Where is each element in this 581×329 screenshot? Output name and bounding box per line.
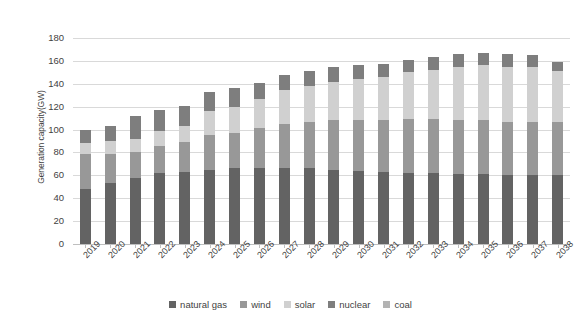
bar-segment-wind[interactable] — [179, 142, 190, 172]
bar-stack[interactable] — [353, 38, 364, 244]
bar-segment-wind[interactable] — [279, 124, 290, 169]
bar-segment-natural-gas[interactable] — [453, 174, 464, 244]
bar-stack[interactable] — [304, 38, 315, 244]
bar-segment-solar[interactable] — [105, 141, 116, 154]
bar-segment-wind[interactable] — [229, 133, 240, 168]
bar-segment-wind[interactable] — [254, 128, 265, 168]
bar-segment-natural-gas[interactable] — [154, 173, 165, 244]
bar-segment-natural-gas[interactable] — [279, 168, 290, 244]
bar-segment-solar[interactable] — [502, 67, 513, 122]
bar-stack[interactable] — [378, 38, 389, 244]
bar-segment-solar[interactable] — [328, 82, 339, 121]
bar-segment-wind[interactable] — [304, 122, 315, 169]
bar-stack[interactable] — [453, 38, 464, 244]
bar-segment-wind[interactable] — [105, 154, 116, 184]
bar-segment-nuclear[interactable] — [453, 54, 464, 67]
bar-stack[interactable] — [279, 38, 290, 244]
bar-stack[interactable] — [80, 38, 91, 244]
bar-stack[interactable] — [502, 38, 513, 244]
bar-segment-natural-gas[interactable] — [80, 189, 91, 244]
bar-segment-wind[interactable] — [502, 122, 513, 176]
bar-segment-nuclear[interactable] — [254, 83, 265, 99]
bar-stack[interactable] — [527, 38, 538, 244]
bar-stack[interactable] — [229, 38, 240, 244]
bar-segment-wind[interactable] — [353, 120, 364, 170]
bar-segment-solar[interactable] — [204, 111, 215, 135]
bar-segment-wind[interactable] — [403, 119, 414, 173]
bar-segment-solar[interactable] — [353, 79, 364, 120]
bar-segment-nuclear[interactable] — [403, 60, 414, 73]
bar-segment-natural-gas[interactable] — [353, 171, 364, 244]
bar-segment-nuclear[interactable] — [378, 64, 389, 77]
bar-segment-nuclear[interactable] — [179, 106, 190, 127]
bar-segment-solar[interactable] — [130, 139, 141, 153]
bar-segment-solar[interactable] — [527, 67, 538, 122]
bar-segment-nuclear[interactable] — [328, 67, 339, 82]
bar-segment-natural-gas[interactable] — [552, 175, 563, 244]
bar-segment-natural-gas[interactable] — [204, 170, 215, 244]
bar-segment-solar[interactable] — [304, 86, 315, 121]
bar-segment-nuclear[interactable] — [229, 88, 240, 106]
bar-segment-solar[interactable] — [403, 72, 414, 119]
bar-stack[interactable] — [552, 38, 563, 244]
bar-segment-nuclear[interactable] — [279, 75, 290, 90]
bar-stack[interactable] — [105, 38, 116, 244]
bar-stack[interactable] — [478, 38, 489, 244]
bar-stack[interactable] — [403, 38, 414, 244]
bar-segment-nuclear[interactable] — [204, 92, 215, 111]
bar-segment-natural-gas[interactable] — [304, 168, 315, 244]
bar-segment-natural-gas[interactable] — [403, 173, 414, 244]
legend-item-coal[interactable]: coal — [383, 299, 411, 310]
bar-segment-natural-gas[interactable] — [179, 172, 190, 244]
bar-segment-natural-gas[interactable] — [328, 170, 339, 244]
bar-segment-solar[interactable] — [453, 67, 464, 121]
bar-segment-nuclear[interactable] — [527, 55, 538, 66]
bar-stack[interactable] — [179, 38, 190, 244]
bar-segment-wind[interactable] — [80, 154, 91, 189]
bar-segment-wind[interactable] — [378, 120, 389, 172]
bar-segment-natural-gas[interactable] — [378, 172, 389, 244]
bar-segment-solar[interactable] — [154, 131, 165, 146]
bar-segment-solar[interactable] — [552, 71, 563, 121]
bar-segment-nuclear[interactable] — [80, 130, 91, 144]
bar-segment-wind[interactable] — [453, 120, 464, 174]
legend-item-natural-gas[interactable]: natural gas — [169, 299, 227, 310]
bar-segment-solar[interactable] — [478, 65, 489, 120]
bar-stack[interactable] — [154, 38, 165, 244]
bar-segment-nuclear[interactable] — [552, 62, 563, 71]
bar-segment-wind[interactable] — [428, 119, 439, 173]
bar-segment-natural-gas[interactable] — [428, 173, 439, 244]
bar-segment-nuclear[interactable] — [478, 53, 489, 66]
bar-segment-wind[interactable] — [130, 152, 141, 177]
bar-segment-nuclear[interactable] — [428, 57, 439, 70]
bar-segment-natural-gas[interactable] — [130, 178, 141, 244]
bar-segment-wind[interactable] — [204, 135, 215, 169]
bar-segment-wind[interactable] — [527, 122, 538, 176]
bar-segment-nuclear[interactable] — [130, 116, 141, 139]
bar-segment-solar[interactable] — [378, 77, 389, 120]
bar-segment-nuclear[interactable] — [105, 126, 116, 141]
bar-segment-solar[interactable] — [229, 107, 240, 133]
legend-item-wind[interactable]: wind — [240, 299, 271, 310]
bar-stack[interactable] — [204, 38, 215, 244]
bar-segment-nuclear[interactable] — [502, 54, 513, 67]
bar-segment-natural-gas[interactable] — [105, 183, 116, 244]
bar-segment-solar[interactable] — [254, 99, 265, 129]
bar-segment-natural-gas[interactable] — [478, 174, 489, 244]
bar-segment-solar[interactable] — [428, 70, 439, 119]
bar-segment-solar[interactable] — [279, 90, 290, 124]
bar-segment-wind[interactable] — [154, 146, 165, 173]
bar-segment-wind[interactable] — [328, 120, 339, 169]
legend-item-solar[interactable]: solar — [284, 299, 316, 310]
bar-segment-natural-gas[interactable] — [527, 175, 538, 244]
bar-segment-natural-gas[interactable] — [502, 175, 513, 244]
bar-segment-wind[interactable] — [552, 122, 563, 176]
bar-segment-natural-gas[interactable] — [229, 168, 240, 244]
bar-stack[interactable] — [254, 38, 265, 244]
bar-segment-solar[interactable] — [80, 143, 91, 153]
legend-item-nuclear[interactable]: nuclear — [328, 299, 370, 310]
bar-segment-nuclear[interactable] — [304, 71, 315, 86]
bar-segment-solar[interactable] — [179, 126, 190, 142]
bar-stack[interactable] — [328, 38, 339, 244]
bar-segment-nuclear[interactable] — [353, 65, 364, 79]
